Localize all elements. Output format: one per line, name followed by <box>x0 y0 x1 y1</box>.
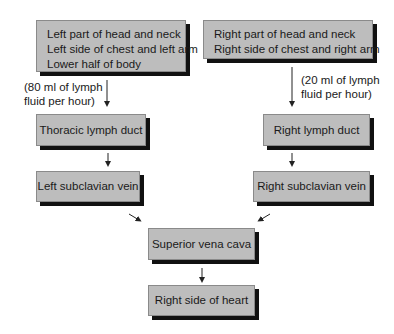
node-left-source: Left part of head and neck Left side of … <box>36 20 186 72</box>
arrow-left-subclavian-to-svc <box>129 214 139 220</box>
arrow-right-subclavian-to-svc <box>260 214 270 220</box>
node-right-source-line-1: Right part of head and neck <box>214 27 372 42</box>
node-right-lymph-duct: Right lymph duct <box>263 114 370 146</box>
node-right-side-of-heart-label: Right side of heart <box>155 293 248 308</box>
node-left-source-line-2: Left side of chest and left arm <box>47 42 185 57</box>
node-superior-vena-cava: Superior vena cava <box>148 228 255 260</box>
node-thoracic-lymph-duct-label: Thoracic lymph duct <box>40 123 143 138</box>
node-right-side-of-heart: Right side of heart <box>148 285 255 316</box>
node-right-lymph-duct-label: Right lymph duct <box>274 123 360 138</box>
node-left-source-line-3: Lower half of body <box>47 57 185 72</box>
node-right-subclavian-vein: Right subclavian vein <box>253 171 370 202</box>
node-thoracic-lymph-duct: Thoracic lymph duct <box>36 114 146 146</box>
annotation-left-flow-line-1: (80 ml of lymph <box>24 80 103 94</box>
node-right-source-line-2: Right side of chest and right arm <box>214 42 372 57</box>
annotation-right-flow-line-2: fluid per hour) <box>301 87 380 101</box>
node-superior-vena-cava-label: Superior vena cava <box>152 237 251 252</box>
node-left-subclavian-vein: Left subclavian vein <box>36 171 140 202</box>
annotation-left-flow-rate: (80 ml of lymph fluid per hour) <box>24 80 103 108</box>
annotation-right-flow-rate: (20 ml of lymph fluid per hour) <box>301 73 380 101</box>
node-left-subclavian-vein-label: Left subclavian vein <box>37 179 138 194</box>
node-left-source-line-1: Left part of head and neck <box>47 27 185 42</box>
annotation-right-flow-line-1: (20 ml of lymph <box>301 73 380 87</box>
node-right-subclavian-vein-label: Right subclavian vein <box>257 179 366 194</box>
node-right-source: Right part of head and neck Right side o… <box>203 20 373 59</box>
annotation-left-flow-line-2: fluid per hour) <box>24 94 103 108</box>
